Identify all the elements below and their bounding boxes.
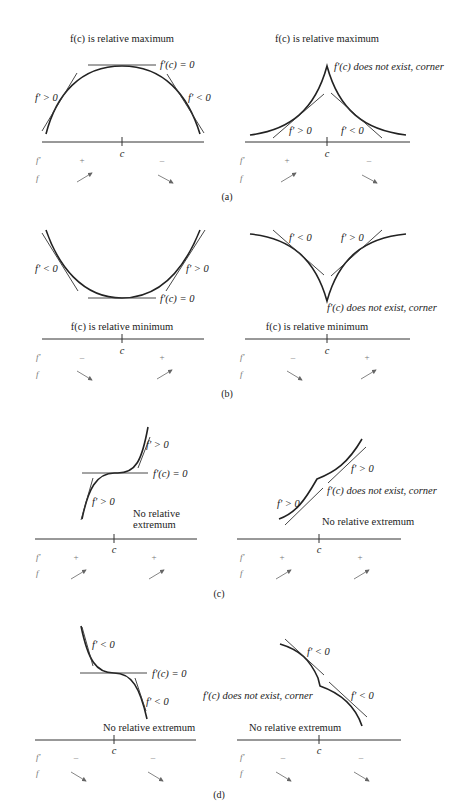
- arrow-down-icon: [158, 175, 173, 183]
- panel-title-line-2: extremum: [133, 519, 176, 530]
- axis-label-c: c: [317, 544, 322, 555]
- arrow-up-icon: [361, 370, 376, 379]
- trend-row-label: f: [240, 768, 244, 778]
- panel-a: f(c) is relative maximum f'(c) = 0 f' > …: [35, 33, 445, 203]
- panel-title: No relative extremum: [249, 722, 341, 733]
- label-left: f' < 0: [35, 263, 58, 274]
- label-right: f' < 0: [188, 92, 211, 103]
- panel-d-right-corner-inflection: f' < 0 f'(c) does not exist, corner f' <…: [203, 639, 401, 781]
- label-right: f' > 0: [146, 439, 169, 450]
- caption-d: (d): [213, 789, 225, 801]
- panel-b: f'(c) = 0 f' < 0 f' > 0 f(c) is relative…: [35, 230, 438, 400]
- trend-row-label: f: [36, 568, 40, 578]
- sign-left: –: [280, 752, 286, 762]
- label-right: f' < 0: [146, 696, 169, 707]
- label-left: f' > 0: [289, 125, 312, 136]
- trend-row-label: f: [36, 369, 40, 379]
- trend-row-label: f: [240, 173, 244, 183]
- panel-b-left-smooth-min: f'(c) = 0 f' < 0 f' > 0 f(c) is relative…: [35, 230, 209, 380]
- panel-title-line-1: No relative: [133, 508, 180, 519]
- label-point: f'(c) does not exist, corner: [327, 302, 438, 314]
- caption-a: (a): [221, 191, 232, 203]
- panel-title: f(c) is relative maximum: [275, 33, 379, 45]
- curve: [250, 234, 406, 301]
- label-point: f'(c) does not exist, corner: [327, 485, 438, 497]
- panel-title: f(c) is relative minimum: [266, 321, 368, 333]
- arrow-down-icon: [148, 772, 163, 781]
- label-left: f' < 0: [307, 646, 330, 657]
- axis-label-c: c: [112, 745, 117, 756]
- sign-right: –: [366, 155, 372, 165]
- label-point: f'(c) = 0: [160, 293, 195, 305]
- panel-c-left-smooth-inflection: f'(c) = 0 f' > 0 f' > 0 No relative extr…: [35, 427, 197, 579]
- trend-row-label: f: [36, 768, 40, 778]
- label-left: f' > 0: [92, 496, 115, 507]
- panel-title: f(c) is relative maximum: [70, 33, 174, 45]
- label-point: f'(c) does not exist, corner: [203, 690, 314, 702]
- tangent-right: [167, 74, 204, 133]
- label-left: f' > 0: [35, 92, 58, 103]
- sign-right: +: [151, 552, 156, 562]
- panel-title: No relative extremum: [322, 516, 414, 527]
- sign-row-label: f': [240, 752, 246, 762]
- tangent-right: [135, 678, 146, 711]
- arrow-up-icon: [71, 570, 86, 579]
- panel-d-left-smooth-inflection: f' < 0 f'(c) = 0 f' < 0 No relative extr…: [35, 626, 196, 781]
- arrow-down-icon: [362, 175, 377, 183]
- sign-left: +: [79, 155, 84, 165]
- sign-left: –: [73, 752, 79, 762]
- panel-a-right-corner-max: f(c) is relative maximum f'(c) does not …: [240, 33, 445, 183]
- caption-c: (c): [213, 588, 224, 600]
- arrow-up-icon: [276, 570, 291, 579]
- label-point: f'(c) does not exist, corner: [334, 61, 445, 73]
- sign-left: +: [284, 155, 289, 165]
- label-right: f' < 0: [341, 125, 364, 136]
- axis-label-c: c: [325, 148, 330, 159]
- caption-b: (b): [221, 388, 233, 400]
- sign-right: –: [150, 752, 156, 762]
- axis-label-c: c: [325, 345, 330, 356]
- axis-label-c: c: [120, 345, 125, 356]
- sign-left: –: [79, 352, 85, 362]
- axis-label-c: c: [317, 745, 322, 756]
- label-right: f' < 0: [351, 690, 374, 701]
- arrow-down-icon: [276, 772, 291, 781]
- trend-row-label: f: [240, 568, 244, 578]
- arrow-up-icon: [354, 570, 369, 579]
- label-left: f' < 0: [92, 639, 115, 650]
- panel-title: f(c) is relative minimum: [71, 321, 173, 333]
- arrow-up-icon: [157, 370, 172, 379]
- tangent-left: [285, 639, 324, 675]
- arrow-down-icon: [287, 371, 302, 380]
- axis-label-c: c: [120, 148, 125, 159]
- label-point: f'(c) = 0: [153, 468, 188, 480]
- label-right: f' > 0: [186, 263, 209, 274]
- label-right: f' > 0: [341, 232, 364, 243]
- curve: [46, 66, 200, 134]
- panel-c: f'(c) = 0 f' > 0 f' > 0 No relative extr…: [35, 427, 438, 600]
- sign-left: +: [279, 552, 284, 562]
- label-point: f'(c) = 0: [160, 59, 195, 71]
- arrow-up-icon: [77, 173, 92, 182]
- sign-right: +: [364, 352, 369, 362]
- sign-row-label: f': [36, 155, 42, 165]
- panel-d: f' < 0 f'(c) = 0 f' < 0 No relative extr…: [35, 626, 401, 801]
- arrow-down-icon: [71, 772, 86, 781]
- sign-right: +: [357, 552, 362, 562]
- sign-right: –: [159, 155, 165, 165]
- axis-label-c: c: [112, 544, 117, 555]
- sign-row-label: f': [36, 552, 42, 562]
- sign-left: –: [290, 352, 296, 362]
- arrow-up-icon: [281, 173, 296, 182]
- sign-row-label: f': [240, 552, 246, 562]
- curve: [46, 230, 200, 298]
- tangent-right: [166, 230, 205, 291]
- panel-b-right-corner-min: f' < 0 f' > 0 f'(c) does not exist, corn…: [240, 230, 438, 380]
- sign-row-label: f': [36, 752, 42, 762]
- label-point: f'(c) = 0: [152, 668, 187, 680]
- label-left: f' < 0: [289, 232, 312, 243]
- label-right: f' > 0: [351, 463, 374, 474]
- panel-a-left-smooth-max: f(c) is relative maximum f'(c) = 0 f' > …: [35, 33, 211, 183]
- curve: [250, 66, 406, 135]
- trend-row-label: f: [36, 173, 40, 183]
